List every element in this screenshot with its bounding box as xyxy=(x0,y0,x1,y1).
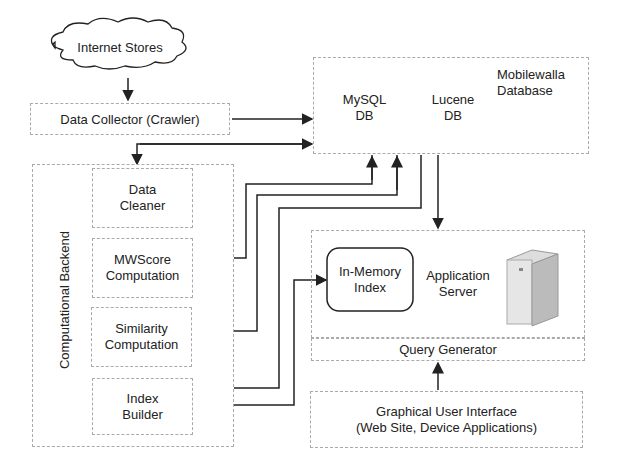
in-memory-index: In-MemoryIndex xyxy=(327,264,413,296)
database-label: MobilewallaDatabase xyxy=(497,67,565,99)
mysql-db: MySQLDB xyxy=(328,92,401,124)
internet-stores-cloud: Internet Stores xyxy=(45,40,195,56)
similarity-box: SimilarityComputation xyxy=(91,307,192,367)
data-cleaner-box: DataCleaner xyxy=(92,168,193,228)
mwscore-box: MWScoreComputation xyxy=(92,238,193,298)
app-server-label: ApplicationServer xyxy=(418,268,498,300)
query-generator-box: Query Generator xyxy=(311,338,585,361)
lucene-db: LuceneDB xyxy=(413,92,493,124)
gui-box: Graphical User Interface(Web Site, Devic… xyxy=(310,391,583,448)
index-builder-box: IndexBuilder xyxy=(92,378,193,435)
backend-label: Computational Backend xyxy=(57,200,73,400)
data-collector-box: Data Collector (Crawler) xyxy=(30,103,230,135)
